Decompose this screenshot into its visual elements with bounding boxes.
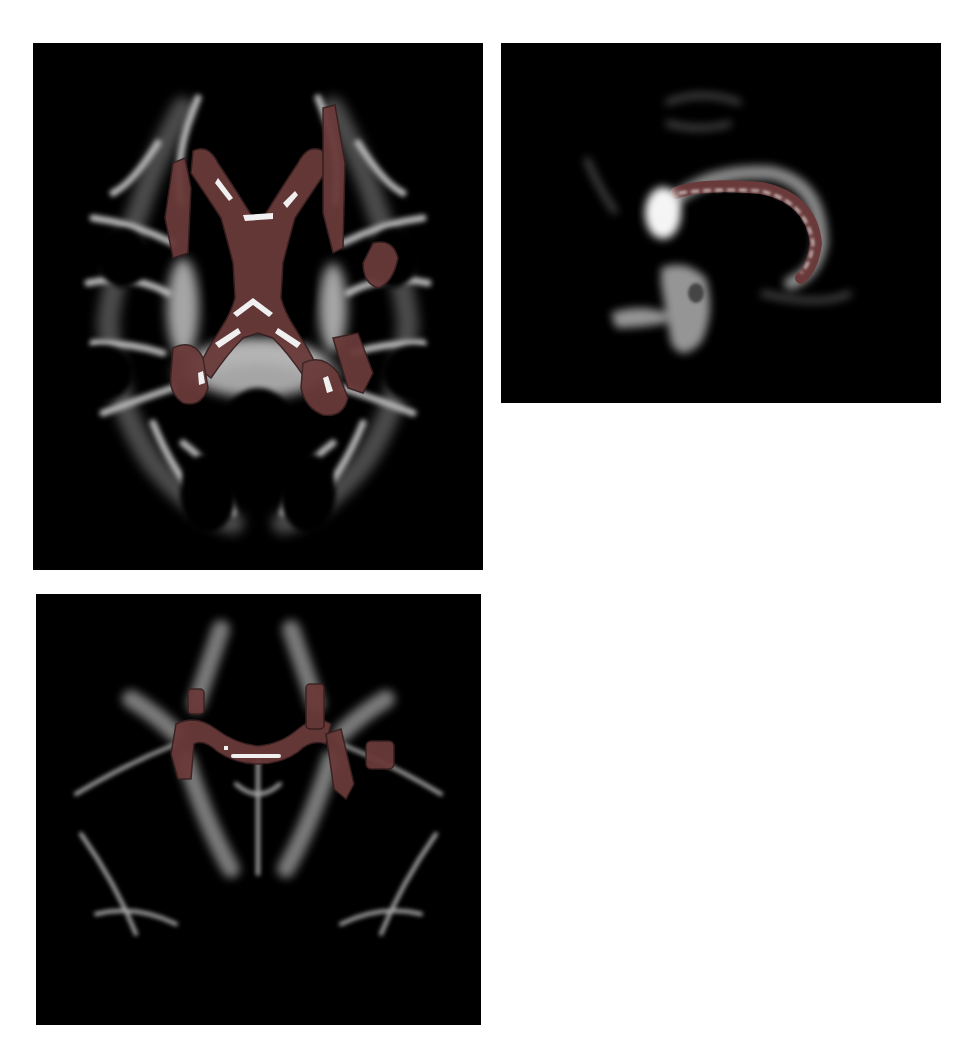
overlay-clusters (171, 684, 394, 799)
axial-brain-slice (33, 43, 483, 570)
axial-fa-map (33, 43, 483, 570)
figure-caption (36, 1036, 481, 1045)
sagittal-brain-slice (501, 43, 941, 403)
overlay-corpus-callosum (676, 186, 816, 278)
coronal-fa-map (36, 594, 481, 1025)
coronal-brain-slice (36, 594, 481, 1025)
sagittal-fa-map (501, 43, 941, 403)
